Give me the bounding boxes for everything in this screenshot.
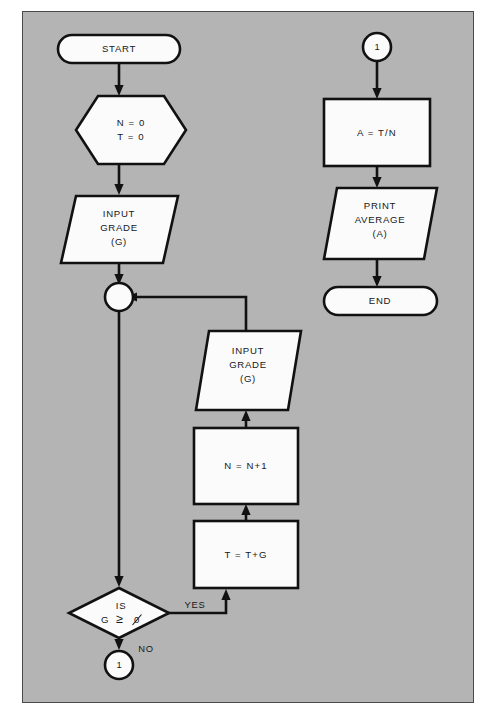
node-average[interactable]: A = T/N (324, 99, 430, 166)
input2-label-line1: INPUT (232, 345, 264, 356)
node-init[interactable]: N = 0 T = 0 (76, 96, 186, 164)
node-start[interactable]: START (58, 35, 180, 63)
node-print-average[interactable]: PRINT AVERAGE (A) (324, 188, 437, 259)
arrowhead-average-to-print (372, 177, 381, 188)
arrowhead-print-to-end (372, 276, 381, 287)
node-input-grade-1[interactable]: INPUT GRADE (G) (61, 196, 178, 263)
init-label-line1: N = 0 (117, 117, 146, 128)
arrowhead-start-to-init (114, 85, 123, 96)
arrowhead-total-to-count (241, 504, 250, 515)
end-label: END (369, 295, 391, 306)
input1-label-line3: (G) (111, 236, 127, 247)
input2-label-line2: GRADE (229, 359, 267, 370)
average-label: A = T/N (357, 127, 397, 138)
print-label-line1: PRINT (364, 200, 396, 211)
node-offpage-connector-a[interactable]: 1 (105, 651, 133, 679)
offpage-b-label: 1 (374, 41, 379, 52)
decision-label-line2: G ≥ 0 (101, 612, 142, 626)
init-label-line2: T = 0 (117, 131, 144, 142)
total-label: T = T+G (224, 549, 267, 560)
edge-label-yes: YES (185, 599, 206, 610)
input1-label-line1: INPUT (103, 208, 135, 219)
input1-label-line2: GRADE (100, 222, 138, 233)
arrowhead-decision-to-offpage-a (114, 639, 123, 650)
node-end[interactable]: END (324, 287, 437, 315)
start-label: START (102, 43, 136, 54)
offpage-a-label: 1 (116, 659, 121, 670)
input2-label-line3: (G) (240, 373, 256, 384)
node-decision[interactable]: IS G ≥ 0 (69, 588, 169, 638)
arrowhead-init-to-input1 (114, 184, 123, 195)
node-junction-connector[interactable] (105, 283, 133, 311)
flowchart-canvas: START N = 0 T = 0 INPUT GRADE (G) IS G ≥ (0, 0, 500, 724)
node-count[interactable]: N = N+1 (194, 428, 298, 504)
edge-label-no: NO (138, 643, 153, 654)
arrowhead-decision-yes-to-total (221, 589, 230, 600)
print-label-line3: (A) (373, 228, 388, 239)
greater-equal-icon: ≥ (116, 612, 124, 626)
node-input-grade-2[interactable]: INPUT GRADE (G) (196, 331, 301, 410)
junction-circle-shape (105, 283, 133, 311)
input2-parallelogram-shape (196, 331, 301, 410)
edge-input2-to-junction (134, 297, 246, 331)
arrowhead-count-to-input2 (241, 410, 250, 421)
arrowhead-junction-to-decision (114, 576, 123, 587)
print-label-line2: AVERAGE (355, 214, 406, 225)
arrowhead-offpage-b-to-average (372, 88, 381, 99)
node-total[interactable]: T = T+G (194, 521, 298, 588)
node-offpage-connector-b[interactable]: 1 (363, 33, 391, 61)
count-label: N = N+1 (224, 460, 267, 471)
flowchart-page: START N = 0 T = 0 INPUT GRADE (G) IS G ≥ (0, 0, 500, 724)
decision-variable: G (101, 614, 109, 625)
decision-label-line1: IS (116, 600, 126, 611)
